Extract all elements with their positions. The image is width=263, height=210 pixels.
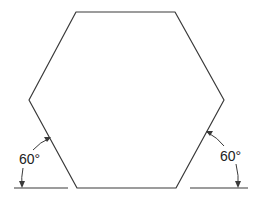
hexagon-shape [29,12,224,188]
hexagon-diagram [0,0,263,210]
left-angle-label: 60° [19,152,40,166]
left-arrowhead-bottom-icon [19,181,25,188]
right-angle-label: 60° [220,149,241,163]
right-arrowhead-bottom-icon [235,181,241,188]
